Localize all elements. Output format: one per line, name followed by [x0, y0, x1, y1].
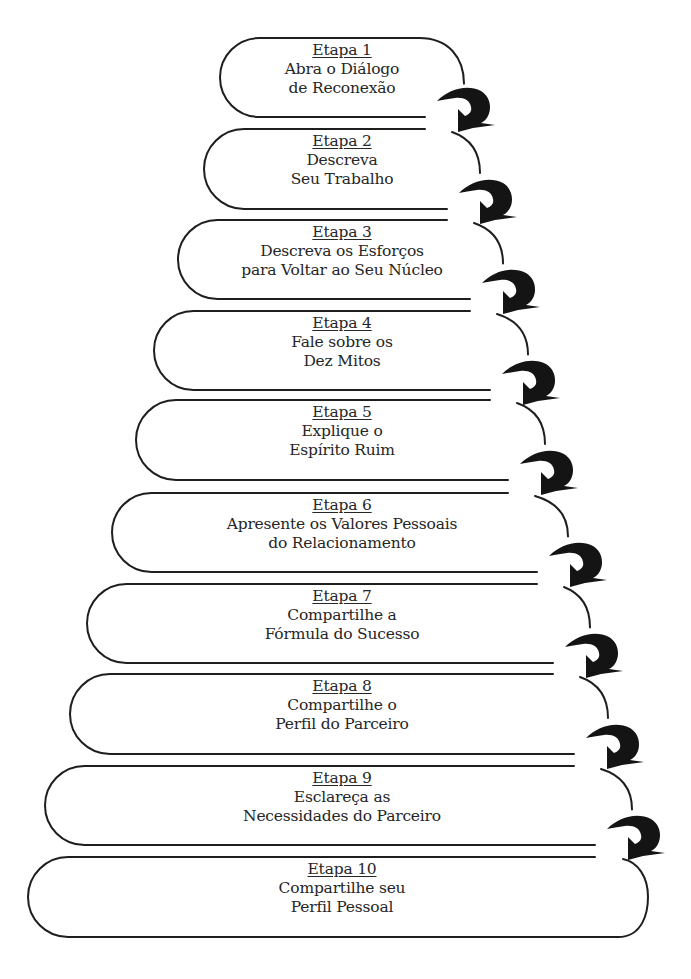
step-box-6: Etapa 6Apresente os Valores Pessoaisdo R… — [162, 496, 522, 553]
step-description-line: Explique o — [162, 422, 522, 441]
step-description-line: Fale sobre os — [162, 333, 522, 352]
step-description-line: Compartilhe o — [162, 696, 522, 715]
step-description-line: Apresente os Valores Pessoais — [162, 515, 522, 534]
step-outline-right-arc-9 — [601, 769, 632, 809]
step-title: Etapa 9 — [162, 769, 522, 788]
step-title: Etapa 1 — [162, 41, 522, 60]
step-description-line: Perfil do Parceiro — [162, 715, 522, 734]
curved-hook-arrow-icon — [565, 634, 623, 678]
step-title: Etapa 8 — [162, 677, 522, 696]
step-box-9: Etapa 9Esclareça asNecessidades do Parce… — [162, 769, 522, 826]
step-description-line: Dez Mitos — [162, 352, 522, 371]
step-box-10: Etapa 10Compartilhe seuPerfil Pessoal — [162, 860, 522, 917]
step-box-5: Etapa 5Explique oEspírito Ruim — [162, 403, 522, 460]
step-box-3: Etapa 3Descreva os Esforçospara Voltar a… — [162, 223, 522, 280]
step-outline-right-arc-6 — [535, 496, 568, 536]
step-title: Etapa 10 — [162, 860, 522, 879]
step-description-line: de Reconexão — [162, 79, 522, 98]
curved-hook-arrow-icon — [586, 725, 644, 769]
step-outline-right-arc-8 — [580, 677, 608, 718]
curved-hook-arrow-icon — [607, 816, 665, 860]
step-description-line: Perfil Pessoal — [162, 898, 522, 917]
step-title: Etapa 3 — [162, 223, 522, 242]
step-description-line: do Relacionamento — [162, 534, 522, 553]
step-title: Etapa 7 — [162, 587, 522, 606]
step-title: Etapa 4 — [162, 314, 522, 333]
curved-hook-arrow-icon — [520, 451, 578, 495]
step-description-line: para Voltar ao Seu Núcleo — [162, 261, 522, 280]
step-box-1: Etapa 1Abra o Diálogode Reconexão — [162, 41, 522, 98]
step-description-line: Descreva os Esforços — [162, 242, 522, 261]
step-box-7: Etapa 7Compartilhe aFórmula do Sucesso — [162, 587, 522, 644]
step-box-2: Etapa 2DescrevaSeu Trabalho — [162, 132, 522, 189]
step-title: Etapa 6 — [162, 496, 522, 515]
step-description-line: Compartilhe seu — [162, 879, 522, 898]
staircase-diagram: Etapa 1Abra o Diálogode ReconexãoEtapa 2… — [0, 0, 691, 979]
step-title: Etapa 5 — [162, 403, 522, 422]
step-box-8: Etapa 8Compartilhe oPerfil do Parceiro — [162, 677, 522, 734]
step-description-line: Seu Trabalho — [162, 170, 522, 189]
step-description-line: Esclareça as — [162, 788, 522, 807]
step-title: Etapa 2 — [162, 132, 522, 151]
step-description-line: Fórmula do Sucesso — [162, 625, 522, 644]
step-description-line: Descreva — [162, 151, 522, 170]
step-box-4: Etapa 4Fale sobre osDez Mitos — [162, 314, 522, 371]
step-description-line: Necessidades do Parceiro — [162, 807, 522, 826]
step-description-line: Espírito Ruim — [162, 441, 522, 460]
step-description-line: Compartilhe a — [162, 606, 522, 625]
curved-hook-arrow-icon — [549, 543, 607, 587]
step-description-line: Abra o Diálogo — [162, 60, 522, 79]
step-outline-right-arc-7 — [564, 587, 590, 627]
